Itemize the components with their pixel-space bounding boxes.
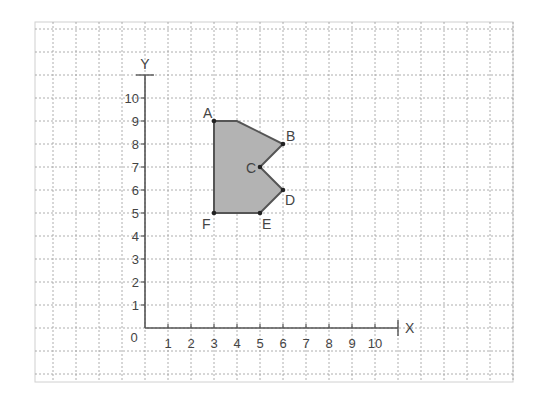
y-tick-label: 10 [125, 91, 139, 106]
vertex-f-label: F [202, 216, 211, 232]
coordinate-grid-diagram: 1234567891012345678910 ABCDEF Y X 0 [0, 0, 536, 395]
y-tick-label: 6 [132, 183, 139, 198]
y-tick-label: 3 [132, 252, 139, 267]
x-tick-label: 5 [256, 336, 263, 351]
x-tick-label: 1 [164, 336, 171, 351]
x-tick-label: 6 [279, 336, 286, 351]
y-tick-label: 5 [132, 206, 139, 221]
vertex-a-label: A [203, 105, 213, 121]
vertex-c-label: C [246, 160, 256, 176]
vertex-a-dot [212, 119, 217, 124]
vertex-e-dot [258, 211, 263, 216]
vertex-b-dot [281, 142, 286, 147]
x-tick-label: 9 [348, 336, 355, 351]
y-tick-label: 4 [132, 229, 139, 244]
vertex-e-label: E [262, 216, 271, 232]
x-axis-label: X [405, 320, 415, 336]
y-axis-label: Y [140, 56, 150, 72]
y-tick-label: 1 [132, 298, 139, 313]
y-tick-label: 9 [132, 114, 139, 129]
x-tick-label: 8 [325, 336, 332, 351]
origin-label: 0 [130, 330, 137, 345]
y-tick-label: 7 [132, 160, 139, 175]
x-tick-label: 4 [233, 336, 240, 351]
y-tick-label: 2 [132, 275, 139, 290]
x-tick-label: 10 [368, 336, 382, 351]
y-tick-label: 8 [132, 137, 139, 152]
vertex-d-label: D [285, 192, 295, 208]
vertex-b-label: B [286, 128, 295, 144]
vertex-c-dot [258, 165, 263, 170]
vertex-f-dot [212, 211, 217, 216]
x-tick-label: 7 [302, 336, 309, 351]
x-tick-label: 3 [210, 336, 217, 351]
x-tick-label: 2 [187, 336, 194, 351]
